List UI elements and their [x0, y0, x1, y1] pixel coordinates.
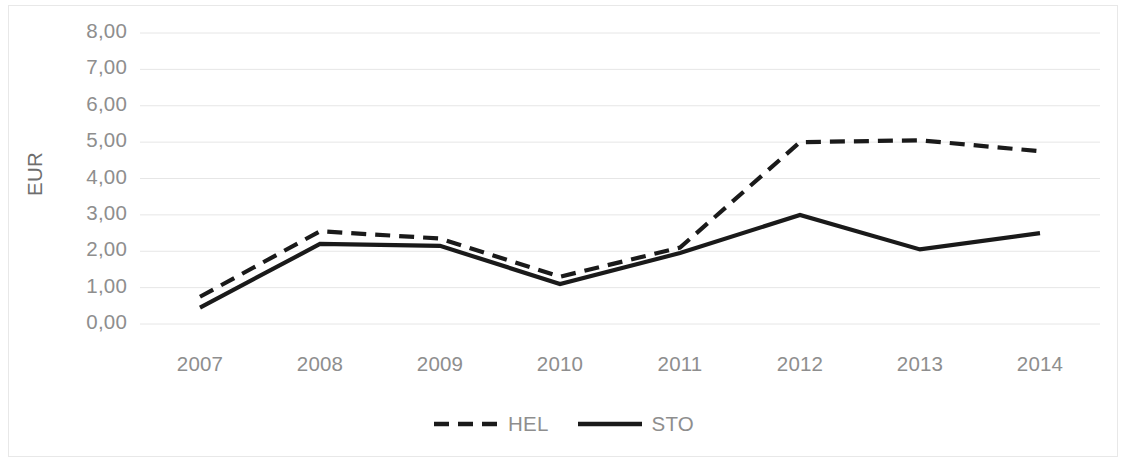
chart-legend: HELSTO	[0, 412, 1127, 436]
legend-item-hel[interactable]: HEL	[433, 412, 548, 436]
line-chart: 8,007,006,005,004,003,002,001,000,00 200…	[0, 0, 1127, 464]
legend-label: HEL	[508, 412, 548, 436]
plot-area	[0, 0, 1127, 464]
series-line-hel	[200, 140, 1040, 296]
legend-swatch-dashed-icon	[433, 417, 499, 431]
series-lines	[200, 140, 1040, 307]
legend-label: STO	[652, 412, 694, 436]
legend-swatch-solid-icon	[577, 417, 643, 431]
legend-item-sto[interactable]: STO	[577, 412, 694, 436]
gridlines	[140, 33, 1100, 324]
